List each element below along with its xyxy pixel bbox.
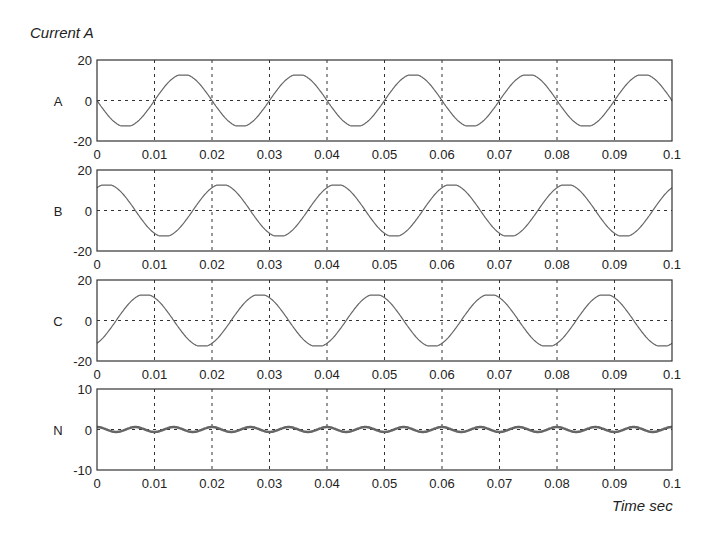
x-tick-label: 0 — [93, 257, 100, 272]
x-tick-label: 0.07 — [487, 476, 512, 491]
subplot-label: B — [54, 204, 63, 219]
x-tick-label: 0.05 — [372, 257, 397, 272]
x-tick-label: 0.04 — [314, 476, 339, 491]
x-tick-label: 0.02 — [199, 147, 224, 162]
x-tick-label: 0.03 — [257, 257, 282, 272]
subplot-c: 00.010.020.030.040.050.060.070.080.090.1… — [53, 273, 681, 382]
x-tick-label: 0.03 — [257, 476, 282, 491]
x-tick-label: 0.04 — [314, 257, 339, 272]
x-tick-label: 0.05 — [372, 367, 397, 382]
x-tick-label: 0.01 — [142, 476, 167, 491]
x-tick-label: 0.04 — [314, 367, 339, 382]
x-tick-label: 0.02 — [199, 476, 224, 491]
chart-figure: 00.010.020.030.040.050.060.070.080.090.1… — [0, 0, 725, 543]
x-tick-label: 0.03 — [257, 147, 282, 162]
x-tick-label: 0.06 — [429, 476, 454, 491]
x-tick-label: 0.1 — [663, 257, 681, 272]
x-tick-label: 0.09 — [602, 257, 627, 272]
subplot-a: 00.010.020.030.040.050.060.070.080.090.1… — [54, 53, 681, 162]
x-tick-label: 0.01 — [142, 367, 167, 382]
x-tick-label: 0.01 — [142, 257, 167, 272]
x-tick-label: 0.06 — [429, 367, 454, 382]
y-tick-label: -20 — [73, 354, 92, 369]
x-tick-label: 0.06 — [429, 257, 454, 272]
y-tick-label: -20 — [73, 134, 92, 149]
x-tick-label: 0.08 — [544, 147, 569, 162]
y-tick-label: 20 — [78, 53, 92, 68]
x-tick-label: 0.08 — [544, 257, 569, 272]
x-tick-label: 0.06 — [429, 147, 454, 162]
x-tick-label: 0.07 — [487, 367, 512, 382]
x-tick-label: 0.09 — [602, 147, 627, 162]
subplot-label: N — [53, 423, 62, 438]
x-tick-label: 0.02 — [199, 367, 224, 382]
y-tick-label: 0 — [85, 423, 92, 438]
y-tick-label: 10 — [78, 382, 92, 397]
x-tick-label: 0.08 — [544, 476, 569, 491]
x-tick-label: 0.05 — [372, 476, 397, 491]
x-tick-label: 0.1 — [663, 367, 681, 382]
subplot-n: 00.010.020.030.040.050.060.070.080.090.1… — [53, 382, 681, 491]
x-tick-label: 0.04 — [314, 147, 339, 162]
x-tick-label: 0 — [93, 476, 100, 491]
subplot-b: 00.010.020.030.040.050.060.070.080.090.1… — [54, 163, 681, 272]
y-tick-label: 20 — [78, 163, 92, 178]
y-tick-label: 0 — [85, 204, 92, 219]
y-tick-label: -10 — [73, 463, 92, 478]
y-tick-label: 20 — [78, 273, 92, 288]
x-tick-label: 0.03 — [257, 367, 282, 382]
x-tick-label: 0.01 — [142, 147, 167, 162]
x-tick-label: 0.02 — [199, 257, 224, 272]
x-tick-label: 0.05 — [372, 147, 397, 162]
x-tick-label: 0.09 — [602, 367, 627, 382]
subplot-label: A — [54, 94, 63, 109]
y-tick-label: 0 — [85, 94, 92, 109]
x-tick-label: 0 — [93, 147, 100, 162]
x-tick-label: 0 — [93, 367, 100, 382]
x-tick-label: 0.07 — [487, 257, 512, 272]
x-tick-label: 0.1 — [663, 476, 681, 491]
x-tick-label: 0.08 — [544, 367, 569, 382]
y-tick-label: 0 — [85, 314, 92, 329]
x-tick-label: 0.1 — [663, 147, 681, 162]
x-tick-label: 0.07 — [487, 147, 512, 162]
subplot-label: C — [53, 314, 62, 329]
y-tick-label: -20 — [73, 244, 92, 259]
x-tick-label: 0.09 — [602, 476, 627, 491]
